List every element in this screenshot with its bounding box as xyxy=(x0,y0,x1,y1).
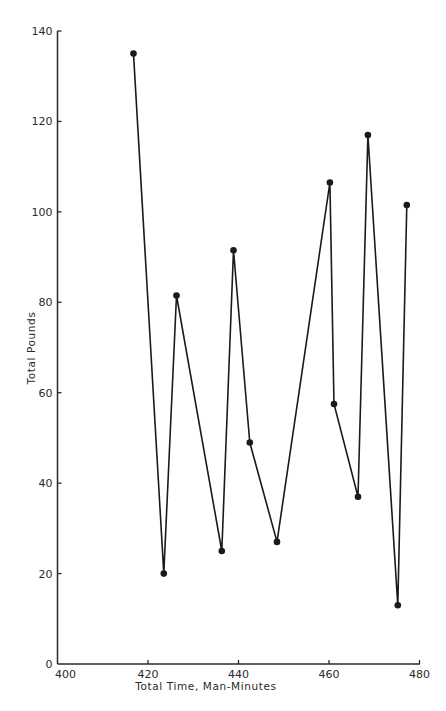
y-tick-label: 100 xyxy=(32,206,53,219)
data-point xyxy=(404,202,411,209)
y-tick-label: 20 xyxy=(39,568,53,581)
y-tick-label: 60 xyxy=(39,387,53,400)
y-tick-label: 0 xyxy=(46,658,53,671)
data-point xyxy=(355,493,362,500)
y-tick-label: 140 xyxy=(32,25,53,38)
data-point xyxy=(230,247,237,254)
y-tick-label: 120 xyxy=(32,115,53,128)
data-point-markers xyxy=(130,50,410,608)
data-point xyxy=(173,292,180,299)
data-point xyxy=(247,439,254,446)
line-chart: 020406080100120140 400420440460480 Total… xyxy=(0,0,446,711)
x-axis: 400420440460480 xyxy=(55,660,430,681)
data-point xyxy=(365,132,372,139)
data-point xyxy=(274,539,281,546)
data-point xyxy=(331,401,338,408)
x-tick-label: 460 xyxy=(319,668,340,681)
x-tick-label: 480 xyxy=(409,668,430,681)
y-axis-title: Total Pounds xyxy=(25,312,37,386)
plot-area xyxy=(130,50,410,608)
y-tick-label: 40 xyxy=(39,477,53,490)
x-tick-label: 400 xyxy=(55,668,76,681)
data-point xyxy=(130,50,137,57)
data-point xyxy=(395,602,402,609)
data-point xyxy=(161,570,168,577)
data-point xyxy=(219,548,226,555)
x-axis-ticks: 400420440460480 xyxy=(55,660,430,681)
y-tick-label: 80 xyxy=(39,296,53,309)
x-axis-title: Total Time, Man-Minutes xyxy=(134,680,276,692)
data-point xyxy=(327,179,334,186)
